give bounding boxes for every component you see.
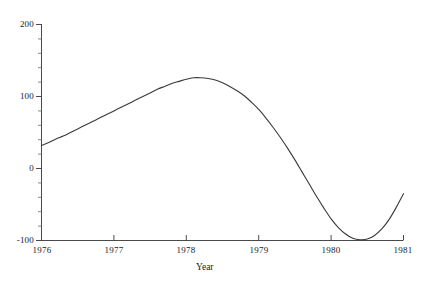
x-tick-label-1980: 1980 xyxy=(314,245,348,255)
y-tick-label-0: 0 xyxy=(8,163,34,173)
chart-figure: 200 100 0 -100 1976 1977 1978 1979 1980 … xyxy=(0,0,427,284)
y-axis-major-ticks xyxy=(36,25,42,241)
x-tick-label-1976: 1976 xyxy=(25,245,59,255)
x-tick-label-1978: 1978 xyxy=(169,245,203,255)
x-axis-title: Year xyxy=(196,262,214,272)
x-axis-major-ticks xyxy=(42,235,404,241)
x-tick-label-1979: 1979 xyxy=(242,245,276,255)
x-tick-label-1977: 1977 xyxy=(97,245,131,255)
plot-area xyxy=(0,0,427,284)
y-tick-label-100: 100 xyxy=(8,91,34,101)
data-series-line xyxy=(42,78,404,240)
x-tick-label-1981: 1981 xyxy=(386,245,420,255)
y-tick-label-200: 200 xyxy=(8,19,34,29)
axes-lines xyxy=(41,24,403,241)
y-axis-minor-ticks xyxy=(38,39,42,226)
y-tick-label-minus100: -100 xyxy=(4,235,34,245)
